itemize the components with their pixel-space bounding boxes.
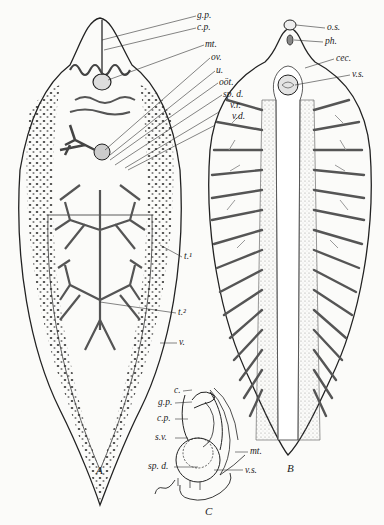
label-genital-pore-c: g.p. (158, 398, 172, 408)
label-ovary: ov. (211, 53, 222, 63)
label-genital-pore-a: g.p. (197, 11, 211, 21)
label-metraterm-c: mt. (250, 447, 262, 457)
label-vitelline-reservoir: v.r. (230, 101, 241, 111)
label-seminal-vesicle: s.v. (155, 433, 167, 443)
label-cirrus-pouch-a: c.p. (197, 23, 211, 33)
label-uterus: u. (216, 66, 223, 76)
label-vitellaria: v. (179, 338, 185, 348)
label-cecum: cec. (336, 54, 351, 64)
label-testis-1: t.¹ (184, 252, 192, 262)
label-sperm-duct-c: sp. d. (148, 462, 168, 472)
caption-c: C (205, 505, 212, 517)
caption-b: B (287, 462, 294, 474)
label-testis-2: t.² (178, 308, 186, 318)
label-sperm-duct-a: sp. d. (223, 90, 243, 100)
label-metraterm-a: mt. (205, 40, 217, 50)
label-oral-sucker: o.s. (327, 23, 340, 33)
label-cirrus-pouch-c: c.p. (157, 414, 171, 424)
label-ventral-sucker-b: v.s. (352, 70, 364, 80)
label-cirrus: c. (174, 386, 181, 396)
fluke-illustration (0, 0, 384, 525)
label-vitelline-duct: v.d. (232, 112, 245, 122)
caption-a: A (96, 464, 103, 476)
label-pharynx: ph. (325, 37, 337, 47)
label-ootype: oöt. (219, 78, 234, 88)
label-ventral-sucker-c: v.s. (245, 466, 257, 476)
